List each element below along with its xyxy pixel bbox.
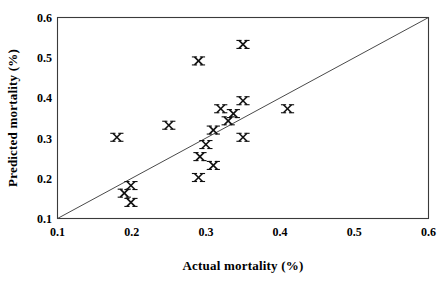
scatter-plot: 0.10.20.30.40.50.6 0.10.20.30.40.50.6 Ac…: [0, 0, 447, 281]
y-tick-label: 0.2: [37, 172, 52, 186]
y-tick-label: 0.5: [37, 51, 52, 65]
x-tick-label: 0.4: [273, 225, 288, 239]
x-tick-label: 0.3: [198, 225, 213, 239]
x-tick-label: 0.5: [347, 225, 362, 239]
figure-container: 0.10.20.30.40.50.6 0.10.20.30.40.50.6 Ac…: [0, 0, 447, 281]
plot-background: [0, 0, 447, 281]
y-tick-label: 0.4: [37, 91, 52, 105]
y-axis-title: Predicted mortality (%): [5, 49, 20, 187]
x-tick-label: 0.2: [124, 225, 139, 239]
x-tick-label: 0.1: [50, 225, 65, 239]
x-axis-title: Actual mortality (%): [183, 258, 304, 273]
y-tick-label: 0.1: [37, 212, 52, 226]
x-tick-label: 0.6: [421, 225, 436, 239]
y-tick-label: 0.6: [37, 11, 52, 25]
y-tick-label: 0.3: [37, 132, 52, 146]
